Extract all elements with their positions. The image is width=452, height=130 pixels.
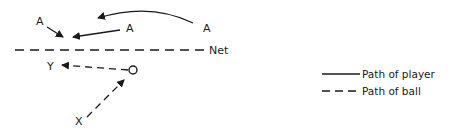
player-a-left-path-arrow — [47, 27, 63, 37]
legend-label-player: Path of player — [362, 68, 436, 80]
ball-path-from-x-arrow — [87, 80, 124, 117]
ball-icon — [129, 66, 137, 74]
legend: Path of player Path of ball — [322, 68, 436, 97]
ball-path-to-y-arrow — [62, 65, 128, 70]
net-label: Net — [209, 44, 229, 57]
player-y-label: Y — [46, 60, 54, 73]
diagram-canvas: Net A A A Y X Path of player Path of bal… — [0, 0, 452, 130]
player-a-middle-path-arrow — [73, 30, 120, 37]
player-x-label: X — [75, 115, 83, 128]
player-a-left-label: A — [36, 15, 44, 28]
legend-label-ball: Path of ball — [362, 85, 421, 97]
player-a-right-label: A — [203, 22, 211, 35]
player-a-right-curved-path-arrow — [98, 11, 193, 23]
player-a-middle-label: A — [126, 22, 134, 35]
